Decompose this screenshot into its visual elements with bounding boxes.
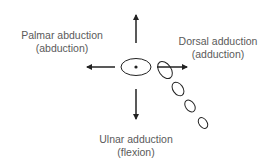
palmar-line2: (abduction)	[16, 42, 108, 55]
ulnar-adduction-label: Ulnar adduction (flexion)	[90, 133, 182, 159]
dorsal-adduction-label: Dorsal adduction (adduction)	[172, 35, 264, 61]
palmar-abduction-label: Palmar abduction (abduction)	[16, 29, 108, 55]
palmar-line1: Palmar abduction	[16, 29, 108, 42]
ulnar-line2: (flexion)	[90, 146, 182, 159]
center-ellipse-icon	[121, 59, 151, 76]
thumb-path-ellipses-icon	[155, 59, 210, 130]
ulnar-line1: Ulnar adduction	[90, 133, 182, 146]
dorsal-line1: Dorsal adduction	[172, 35, 264, 48]
dorsal-line2: (adduction)	[172, 48, 264, 61]
